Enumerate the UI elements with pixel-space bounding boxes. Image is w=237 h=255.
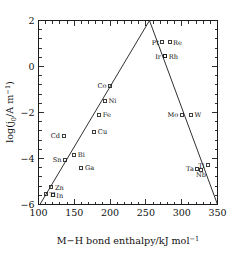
marker-mo [180, 113, 183, 116]
data-point-fe: Fe [98, 111, 111, 119]
point-label-cd: Cd [51, 132, 61, 140]
volcano-trend-lines [40, 21, 218, 205]
data-points: TlInZnSnCdBiGaCuFeNiCoPtReIrRhMoWTaNbTi [44, 39, 210, 200]
x-tick-label-350: 350 [208, 207, 226, 218]
marker-pt [161, 41, 164, 44]
y-axis-title: log(j0/A m−1) [4, 81, 18, 143]
point-label-sn: Sn [53, 156, 63, 164]
x-axis-title: M−H bond enthalpy/kJ mol−1 [57, 235, 199, 246]
point-label-pt: Pt [152, 39, 159, 47]
marker-w [190, 113, 193, 116]
marker-ti [207, 164, 210, 167]
point-label-co: Co [98, 82, 107, 90]
ascending-branch [40, 21, 150, 205]
x-axis-tick-labels: 100150200250300350 [29, 207, 226, 218]
data-point-ti: Ti [198, 162, 210, 170]
point-label-cu: Cu [98, 128, 107, 136]
data-point-ni: Ni [104, 97, 117, 105]
y-axis-ticks [39, 21, 218, 205]
point-label-re: Re [173, 39, 182, 47]
x-tick-label-300: 300 [173, 207, 191, 218]
data-point-ga: Ga [80, 164, 94, 172]
point-label-bi: Bi [78, 151, 85, 159]
point-label-ti: Ti [198, 162, 205, 170]
point-label-rh: Rh [169, 53, 179, 61]
x-tick-label-250: 250 [137, 207, 155, 218]
data-point-ir: Ir [155, 53, 166, 61]
point-label-ga: Ga [85, 164, 94, 172]
data-point-nb: Nb [196, 169, 206, 180]
y-axis-tick-labels: 20−2−4−6 [20, 15, 34, 210]
data-point-cd: Cd [51, 132, 65, 140]
y-tick-label-1: 0 [28, 61, 34, 72]
point-label-w: W [195, 111, 202, 119]
marker-ni [104, 100, 107, 103]
x-tick-label-150: 150 [65, 207, 83, 218]
data-point-pt: Pt [152, 39, 164, 47]
point-label-ta: Ta [186, 165, 194, 173]
point-label-ni: Ni [109, 97, 117, 105]
data-point-cu: Cu [93, 128, 107, 136]
marker-bi [73, 154, 76, 157]
y-tick-label-0: 2 [28, 15, 34, 26]
x-tick-label-200: 200 [101, 207, 119, 218]
plot-canvas: TlInZnSnCdBiGaCuFeNiCoPtReIrRhMoWTaNbTi … [0, 0, 237, 255]
y-tick-label-4: −6 [20, 199, 34, 210]
data-point-co: Co [98, 82, 112, 90]
y-tick-label-2: −2 [20, 107, 34, 118]
y-tick-label-3: −4 [20, 153, 34, 164]
data-point-re: Re [168, 39, 182, 47]
marker-fe [98, 113, 101, 116]
point-label-zn: Zn [55, 184, 65, 192]
point-label-mo: Mo [167, 111, 178, 119]
marker-cu [93, 131, 96, 134]
point-label-ir: Ir [155, 53, 162, 61]
data-point-bi: Bi [73, 151, 85, 159]
point-label-in: In [56, 192, 64, 200]
point-label-fe: Fe [103, 111, 111, 119]
marker-re [168, 41, 171, 44]
descending-branch [149, 21, 217, 205]
marker-cd [62, 134, 65, 137]
data-point-w: W [190, 111, 202, 119]
plot-frame [39, 21, 218, 205]
x-axis-ticks [39, 21, 218, 205]
marker-ga [80, 166, 83, 169]
point-label-nb: Nb [196, 171, 206, 179]
svg-text:log(j0/A m−1): log(j0/A m−1) [4, 81, 18, 143]
data-point-mo: Mo [167, 111, 183, 119]
volcano-plot-figure: TlInZnSnCdBiGaCuFeNiCoPtReIrRhMoWTaNbTi … [0, 0, 237, 255]
